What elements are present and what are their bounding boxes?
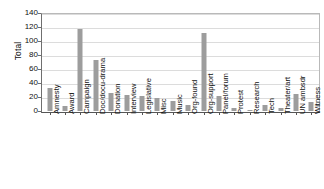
y-tick-mark (38, 111, 41, 112)
y-tick-label: 0 (4, 107, 38, 115)
y-tick-mark (38, 41, 41, 42)
x-tick-label: Witness (314, 87, 322, 114)
y-tick-label: 60 (4, 65, 38, 73)
x-tick-mark (157, 112, 158, 115)
x-tick-label-text: Panel/forum (222, 73, 230, 114)
y-tick-mark (38, 69, 41, 70)
x-tick-label: Donation (114, 84, 122, 114)
x-tick-mark (250, 112, 251, 115)
x-tick-label-text: Amnesty (53, 84, 61, 114)
y-tick-mark (38, 13, 41, 14)
x-tick-mark (265, 112, 266, 115)
y-tick-label: 120 (4, 23, 38, 31)
x-tick-label: Award (68, 93, 76, 114)
y-tick-label: 140 (4, 9, 38, 17)
x-tick-label-text: Legislative (145, 78, 153, 114)
x-tick-mark (127, 112, 128, 115)
x-tick-mark (50, 112, 51, 115)
x-tick-mark (281, 112, 282, 115)
x-tick-label: Org-found (191, 80, 199, 114)
x-tick-label-text: Donation (114, 84, 122, 114)
x-tick-label-text: Protest (237, 90, 245, 114)
x-tick-label: Legislative (145, 78, 153, 114)
x-tick-label: Doc/docu-drama (99, 58, 107, 114)
x-tick-label: Interview (130, 84, 138, 114)
x-tick-label: Protest (237, 90, 245, 114)
x-tick-label: Campaign (83, 79, 91, 114)
x-tick-mark (173, 112, 174, 115)
x-tick-label: UN ambsdr (299, 76, 307, 114)
x-tick-mark (296, 112, 297, 115)
x-tick-mark (204, 112, 205, 115)
y-tick-label: 20 (4, 93, 38, 101)
x-tick-label-text: Theater/art (284, 77, 292, 114)
x-tick-mark (219, 112, 220, 115)
y-tick-mark (38, 27, 41, 28)
x-tick-label: Panel/forum (222, 73, 230, 114)
x-tick-label-text: Misc (160, 98, 168, 114)
x-axis-labels: AmnestyAwardCampaignDoc/docu-dramaDonati… (42, 114, 319, 189)
x-tick-label-text: Interview (130, 84, 138, 114)
bar-chart: Total 020406080100120140 AmnestyAwardCam… (0, 0, 324, 189)
x-tick-label-text: UN ambsdr (299, 76, 307, 114)
x-tick-label: Tech (268, 98, 276, 114)
x-tick-mark (80, 112, 81, 115)
x-tick-label-text: Org-support (207, 73, 215, 114)
x-tick-mark (188, 112, 189, 115)
x-tick-mark (234, 112, 235, 115)
x-tick-label: Theater/art (284, 77, 292, 114)
x-tick-label: Misc (160, 98, 168, 114)
y-tick-mark (38, 97, 41, 98)
y-tick-mark (38, 83, 41, 84)
y-tick-mark (38, 55, 41, 56)
x-tick-mark (111, 112, 112, 115)
x-tick-label-text: Witness (314, 87, 322, 114)
x-tick-label-text: Research (253, 82, 261, 115)
y-tick-label: 100 (4, 37, 38, 45)
x-tick-mark (65, 112, 66, 115)
y-tick-label: 80 (4, 51, 38, 59)
x-tick-label: Music (176, 94, 184, 114)
x-tick-label: Amnesty (53, 84, 61, 114)
x-tick-label-text: Campaign (83, 79, 91, 114)
x-tick-label-text: Org-found (191, 80, 199, 114)
x-tick-label-text: Award (68, 93, 76, 114)
x-tick-label: Org-support (207, 73, 215, 114)
y-tick-label: 40 (4, 79, 38, 87)
x-tick-label-text: Music (176, 94, 184, 114)
x-tick-label: Research (253, 82, 261, 115)
x-tick-label-text: Tech (268, 98, 276, 114)
x-tick-mark (311, 112, 312, 115)
x-tick-label-text: Doc/docu-drama (99, 58, 107, 114)
x-tick-mark (96, 112, 97, 115)
x-tick-mark (142, 112, 143, 115)
